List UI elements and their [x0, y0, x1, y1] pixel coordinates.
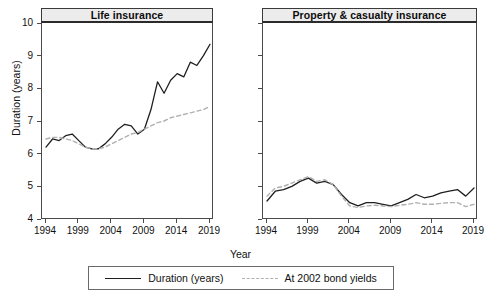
plot-lines [263, 23, 477, 219]
legend-item-duration: Duration (years) [105, 272, 223, 284]
x-tick-mark [143, 219, 144, 223]
chart-legend: Duration (years) At 2002 bond yields [88, 266, 394, 290]
y-tick-label: 5 [17, 180, 33, 191]
y-tick-mark [37, 55, 41, 56]
y-tick-mark [258, 153, 262, 154]
series-line-bond-yields [46, 106, 210, 148]
x-tick-mark [348, 219, 349, 223]
y-tick-label: 8 [17, 82, 33, 93]
x-tick-label: 2019 [192, 225, 226, 236]
x-tick-mark [431, 219, 432, 223]
x-tick-mark [266, 219, 267, 223]
y-tick-mark [37, 88, 41, 89]
panel-title: Life insurance [91, 9, 164, 21]
x-tick-label: 1994 [249, 225, 283, 236]
y-tick-mark [37, 153, 41, 154]
x-tick-mark [390, 219, 391, 223]
x-tick-label: 1999 [290, 225, 324, 236]
x-tick-label: 2009 [126, 225, 160, 236]
plot-lines [42, 23, 213, 219]
x-tick-label: 1999 [61, 225, 95, 236]
panel-title-strip: Life insurance [41, 8, 213, 23]
x-tick-mark [209, 219, 210, 223]
y-tick-mark [37, 186, 41, 187]
x-tick-label: 2019 [456, 225, 489, 236]
x-tick-mark [110, 219, 111, 223]
x-tick-mark [473, 219, 474, 223]
panel-title: Property & casualty insurance [292, 9, 446, 21]
y-tick-label: 4 [17, 213, 33, 224]
legend-key-solid-icon [105, 278, 141, 279]
x-tick-label: 2014 [159, 225, 193, 236]
legend-item-bond-yields: At 2002 bond yields [242, 272, 377, 284]
y-tick-mark [37, 121, 41, 122]
series-line-duration [267, 178, 474, 206]
y-tick-mark [258, 23, 262, 24]
y-tick-mark [258, 121, 262, 122]
y-tick-mark [258, 219, 262, 220]
x-tick-label: 2004 [332, 225, 366, 236]
y-tick-label: 10 [17, 17, 33, 28]
y-tick-label: 7 [17, 115, 33, 126]
x-tick-mark [176, 219, 177, 223]
x-tick-mark [45, 219, 46, 223]
legend-key-dashed-icon [242, 278, 278, 279]
y-tick-label: 6 [17, 148, 33, 159]
plot-area [41, 23, 213, 219]
x-tick-mark [77, 219, 78, 223]
y-tick-mark [258, 55, 262, 56]
y-tick-mark [258, 88, 262, 89]
y-tick-mark [258, 186, 262, 187]
x-tick-label: 2004 [94, 225, 128, 236]
y-tick-mark [37, 23, 41, 24]
x-tick-label: 2014 [415, 225, 449, 236]
y-tick-label: 9 [17, 50, 33, 61]
x-tick-label: 1994 [28, 225, 62, 236]
legend-label-duration: Duration (years) [148, 272, 223, 284]
x-axis-label: Year [0, 248, 481, 260]
series-line-duration [46, 44, 210, 149]
x-tick-label: 2009 [373, 225, 407, 236]
legend-label-bond-yields: At 2002 bond yields [285, 272, 377, 284]
plot-area [262, 23, 477, 219]
y-tick-mark [37, 219, 41, 220]
panel-title-strip: Property & casualty insurance [262, 8, 477, 23]
x-tick-mark [307, 219, 308, 223]
